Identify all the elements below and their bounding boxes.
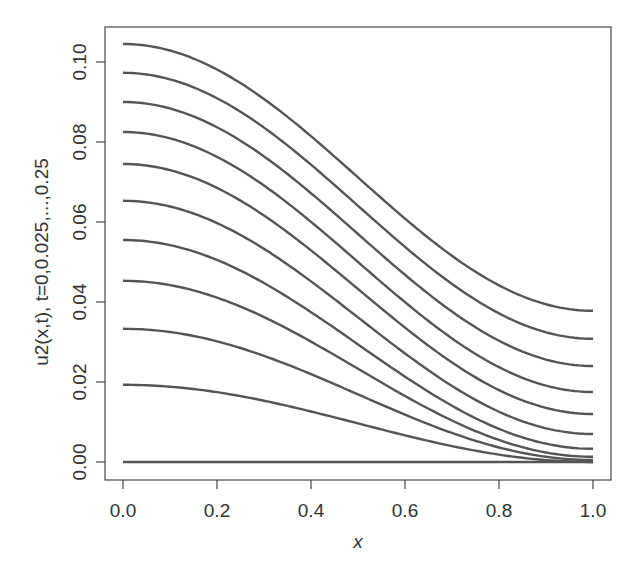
curve-t-0-2 — [123, 102, 593, 366]
curve-t-0-075 — [123, 281, 593, 457]
curve-t-0-15 — [123, 164, 593, 414]
y-tick-label: 0.06 — [69, 204, 90, 241]
x-tick-label: 0.4 — [298, 500, 325, 521]
curve-t-0-1 — [123, 240, 593, 449]
curve-t-0-025 — [123, 385, 593, 462]
curve-t-0-225 — [123, 73, 593, 339]
y-tick-label: 0.04 — [69, 283, 90, 320]
y-axis: 0.000.020.040.060.080.10 — [69, 44, 105, 481]
y-tick-label: 0.02 — [69, 364, 90, 401]
y-tick-label: 0.08 — [69, 124, 90, 161]
x-axis: 0.00.20.40.60.81.0 — [110, 480, 606, 521]
y-axis-title: u2(x,t), t=0,0.025,...,0.25 — [31, 158, 52, 366]
plot-frame — [105, 27, 611, 480]
line-chart: 0.00.20.40.60.81.0 0.000.020.040.060.080… — [0, 0, 632, 575]
curve-t-0-175 — [123, 132, 593, 392]
x-axis-title: x — [352, 531, 364, 552]
curves — [123, 44, 593, 462]
curve-t-0-05 — [123, 329, 593, 460]
curve-t-0-125 — [123, 201, 593, 434]
x-tick-label: 0.0 — [110, 500, 136, 521]
y-tick-label: 0.00 — [69, 444, 90, 481]
x-tick-label: 0.8 — [486, 500, 512, 521]
x-tick-label: 0.6 — [392, 500, 418, 521]
y-tick-label: 0.10 — [69, 44, 90, 81]
x-tick-label: 0.2 — [204, 500, 230, 521]
x-tick-label: 1.0 — [580, 500, 606, 521]
